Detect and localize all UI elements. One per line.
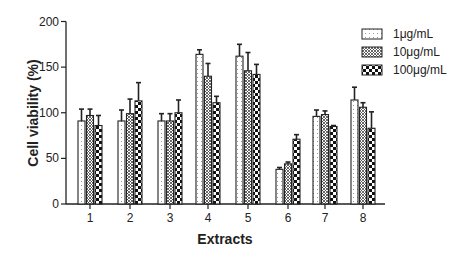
bar [196, 54, 203, 204]
y-axis-label: Cell viability (%) [25, 59, 41, 166]
legend-label: 1μg/mL [393, 27, 434, 41]
legend-label: 100μg/mL [393, 63, 447, 77]
y-tick-label: 0 [52, 197, 59, 211]
legend-swatch [362, 47, 382, 57]
bar [245, 71, 252, 204]
bar [368, 128, 375, 204]
bar [293, 139, 300, 204]
legend: 1μg/mL10μg/mL100μg/mL [362, 27, 447, 77]
bar [78, 121, 85, 204]
x-tick-label: 8 [360, 211, 367, 225]
x-tick-label: 7 [322, 211, 329, 225]
bar [236, 56, 243, 204]
x-tick-label: 4 [205, 211, 212, 225]
bar [276, 169, 283, 204]
y-tick-label: 100 [39, 106, 59, 120]
y-tick-label: 50 [46, 151, 60, 165]
x-tick-label: 1 [87, 211, 94, 225]
y-tick-label: 150 [39, 60, 59, 74]
x-tick-label: 6 [285, 211, 292, 225]
bar [205, 76, 212, 204]
bar [360, 107, 367, 204]
bars [78, 44, 375, 204]
legend-label: 10μg/mL [393, 45, 440, 59]
bar [285, 164, 292, 204]
x-axis-label: Extracts [197, 231, 252, 247]
bar [351, 100, 358, 204]
bar [253, 74, 260, 204]
x-tick-label: 2 [127, 211, 134, 225]
y-tick-label: 200 [39, 15, 59, 29]
bar [167, 121, 174, 204]
bar [213, 103, 220, 204]
x-tick-label: 5 [245, 211, 252, 225]
bar [313, 116, 320, 204]
bar [158, 121, 165, 204]
bar [330, 126, 337, 204]
x-tick-label: 3 [167, 211, 174, 225]
bar [175, 113, 182, 204]
bar-chart: 05010015020012345678 1μg/mL10μg/mL100μg/… [0, 0, 471, 257]
bar [95, 126, 102, 204]
legend-swatch [362, 65, 382, 75]
bar [127, 114, 134, 204]
legend-swatch [362, 29, 382, 39]
bar [118, 121, 125, 204]
bar [322, 115, 329, 204]
bar [87, 115, 94, 204]
bar [135, 101, 142, 204]
